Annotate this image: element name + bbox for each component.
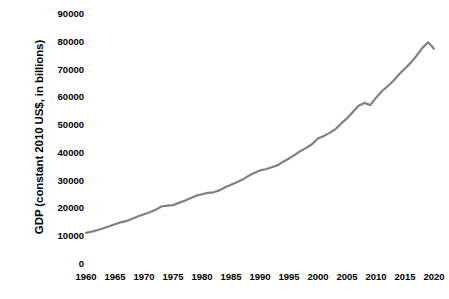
y-tick-label: 20000 [36, 203, 84, 213]
gdp-series-line [86, 14, 434, 264]
y-tick-label: 30000 [36, 176, 84, 186]
y-tick-label: 60000 [36, 92, 84, 102]
y-tick-label: 40000 [36, 148, 84, 158]
y-tick-label: 0 [36, 259, 84, 269]
x-axis-tick-labels: 1960196519701975198019851990199520002005… [0, 271, 442, 287]
y-tick-label: 50000 [36, 120, 84, 130]
plot-area [86, 14, 434, 264]
gdp-series-polyline [86, 42, 434, 233]
y-tick-label: 10000 [36, 231, 84, 241]
y-tick-label: 70000 [36, 65, 84, 75]
y-tick-label: 90000 [36, 9, 84, 19]
y-axis-tick-labels: 0100002000030000400005000060000700008000… [36, 14, 84, 264]
x-tick-label: 2020 [414, 271, 449, 282]
y-tick-label: 80000 [36, 37, 84, 47]
